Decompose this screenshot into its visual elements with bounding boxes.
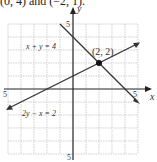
x-axis-label: x bbox=[149, 91, 155, 102]
x-min-tick-label: 5 bbox=[3, 90, 7, 99]
y-axis-label: y bbox=[76, 3, 82, 14]
intersection-label: (2, 2) bbox=[92, 46, 114, 58]
line2-equation-label: 2y − x = 2 bbox=[22, 109, 56, 118]
intersection-point bbox=[96, 60, 102, 66]
y-max-tick-label: 5 bbox=[66, 20, 70, 29]
line1-equation-label: x + y = 4 bbox=[25, 42, 56, 51]
y-min-tick-label: 5 bbox=[67, 153, 71, 162]
coordinate-graph: y x 5 5 5 5 x + y = 4 2y − x = 2 (2, 2) bbox=[0, 0, 157, 162]
x-max-tick-label: 5 bbox=[133, 90, 137, 99]
axes bbox=[4, 10, 150, 160]
y-axis-arrow-icon bbox=[70, 7, 76, 14]
